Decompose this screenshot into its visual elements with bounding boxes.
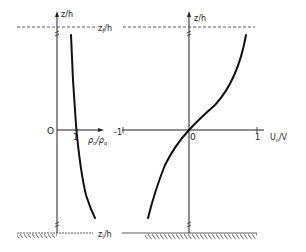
right-y-axis-label: z/h [194, 14, 206, 23]
left-origin-label: O [47, 126, 54, 136]
right-tick-neg1-label: -1 [114, 128, 122, 137]
ground-hatch-left [17, 234, 57, 238]
right-tick-1-label: 1 [255, 133, 260, 142]
density-profile-curve [71, 35, 95, 218]
ground-hatch-right [145, 234, 257, 239]
right-x-axis-label: Uo/V [270, 133, 288, 143]
left-panel: z/h O 1 ρo/ρq [47, 10, 107, 233]
arrow-up-icon [55, 11, 59, 17]
arrow-up-icon [187, 11, 191, 17]
top-boundary-label: zf/h [98, 24, 112, 34]
vertical-profile-diagram: zf/h zi/h z/h O 1 ρo/ρq z/h [0, 0, 306, 252]
bottom-boundary-label: zi/h [98, 230, 112, 240]
bottom-boundary-line [17, 233, 257, 239]
velocity-profile-curve [148, 35, 246, 218]
right-panel: z/h -1 0 1 Uo/V [114, 11, 288, 233]
left-x-axis-label: ρo/ρq [88, 136, 107, 147]
right-origin-label: 0 [190, 132, 196, 142]
arrow-right-icon [98, 128, 104, 132]
left-y-axis-label: z/h [61, 10, 73, 19]
